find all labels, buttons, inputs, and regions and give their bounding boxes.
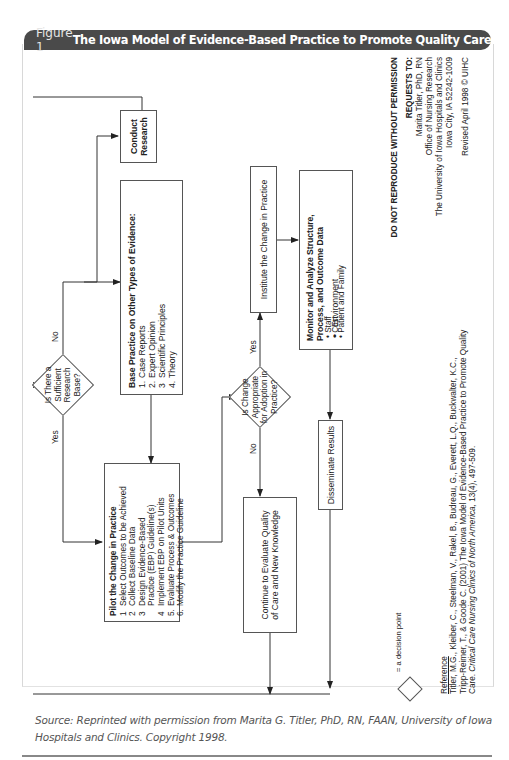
conduct-research-label: Conduct Research: [129, 111, 149, 162]
contact-line: Marita Titler, PhD, RN: [415, 57, 425, 302]
reference-line: Care. Critical Care Nursing Clinics of N…: [468, 274, 477, 694]
list-item: 3Scientific Principles: [157, 187, 167, 388]
base-practice-list: 1.Case Reports 2.Expert Opinion 3Scienti…: [137, 187, 177, 388]
decision-change-text: Is Change Appropriate for Adoption in Pr…: [241, 370, 279, 424]
continue-evaluate-label: Continue to Evaluate Quality of Care and…: [260, 506, 280, 624]
contact-line: Office of Nursing Research: [425, 57, 435, 302]
list-item: 4.Theory: [167, 187, 177, 388]
permission-block: DO NOT REPRODUCE WITHOUT PERMISSION REQU…: [390, 57, 471, 302]
continue-evaluate-box: Continue to Evaluate Quality of Care and…: [243, 497, 297, 633]
source-caption: Source: Reprinted with permission from M…: [35, 712, 495, 746]
pilot-change-box: Pilot the Change in Practice 1Select Out…: [104, 463, 180, 622]
change-no-label: No: [248, 443, 258, 454]
reference-line: Tripp-Reimer, T., & Goode C. (2001) The …: [459, 274, 468, 694]
legend-text: = a decision point: [394, 613, 404, 672]
bottom-rule: [22, 755, 492, 757]
monitor-title: Monitor and Analyze Structure, Process, …: [305, 179, 325, 341]
decision-research-text: Is There a Sufficient Research Base?: [46, 360, 80, 410]
institute-change-label: Institute the Change in Practice: [259, 180, 269, 299]
disseminate-results-box: Disseminate Results: [318, 420, 343, 510]
list-item: 2.Expert Opinion: [147, 187, 157, 388]
contact-line: The University of Iowa Hospitals and Cli…: [435, 57, 445, 302]
do-not-reproduce: DO NOT REPRODUCE WITHOUT PERMISSION: [390, 57, 400, 302]
figure-header: Figure 1 The Iowa Model of Evidence-Base…: [24, 30, 491, 50]
list-item: 6.Modify the Practice Guideline: [176, 469, 186, 616]
revised-note: Revised April 1998 © UIHC: [461, 57, 471, 302]
contact-line: Iowa City, IA 52242-1009: [445, 57, 455, 302]
research-yes-label: Yes: [50, 430, 60, 444]
research-no-label: No: [50, 331, 60, 342]
institute-change-box: Institute the Change in Practice: [250, 166, 277, 313]
disseminate-label: Disseminate Results: [326, 426, 336, 504]
base-practice-box: Base Practice on Other Types of Evidence…: [120, 180, 183, 395]
base-practice-title: Base Practice on Other Types of Evidence…: [127, 187, 137, 388]
list-item: 1.Case Reports: [137, 187, 147, 388]
pilot-list: 1Select Outcomes to be Achieved 2Collect…: [119, 469, 186, 616]
figure-label: Figure 1: [36, 26, 73, 54]
flowchart: Is There a Sufficient Research Base? No …: [22, 52, 499, 702]
requests-to: REQUESTS TO:: [405, 57, 415, 302]
reference-block: Reference Titler, M.G., Kleiber, C., Ste…: [440, 274, 478, 694]
figure-title: The Iowa Model of Evidence-Based Practic…: [73, 33, 509, 47]
list-item: • Patient and Family: [339, 265, 346, 338]
change-yes-label: Yes: [248, 340, 258, 354]
reference-heading: Reference: [440, 274, 449, 694]
reference-line: Titler, M.G., Kleiber, C., Steelman, V.,…: [449, 274, 458, 694]
conduct-research-box: Conduct Research: [120, 110, 157, 163]
monitor-bullets: • Staff • Cost • Patient and Family: [326, 265, 346, 338]
